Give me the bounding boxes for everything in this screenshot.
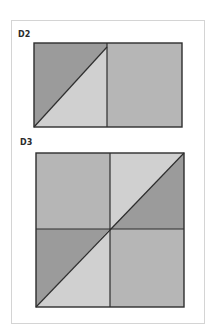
diagram-d3 [36, 153, 184, 307]
d2-right-half [107, 43, 182, 127]
d3-top-left [36, 153, 110, 229]
diagram-d2 [34, 43, 182, 127]
figure-diagrams [0, 0, 212, 335]
d3-bottom-right [110, 229, 184, 307]
